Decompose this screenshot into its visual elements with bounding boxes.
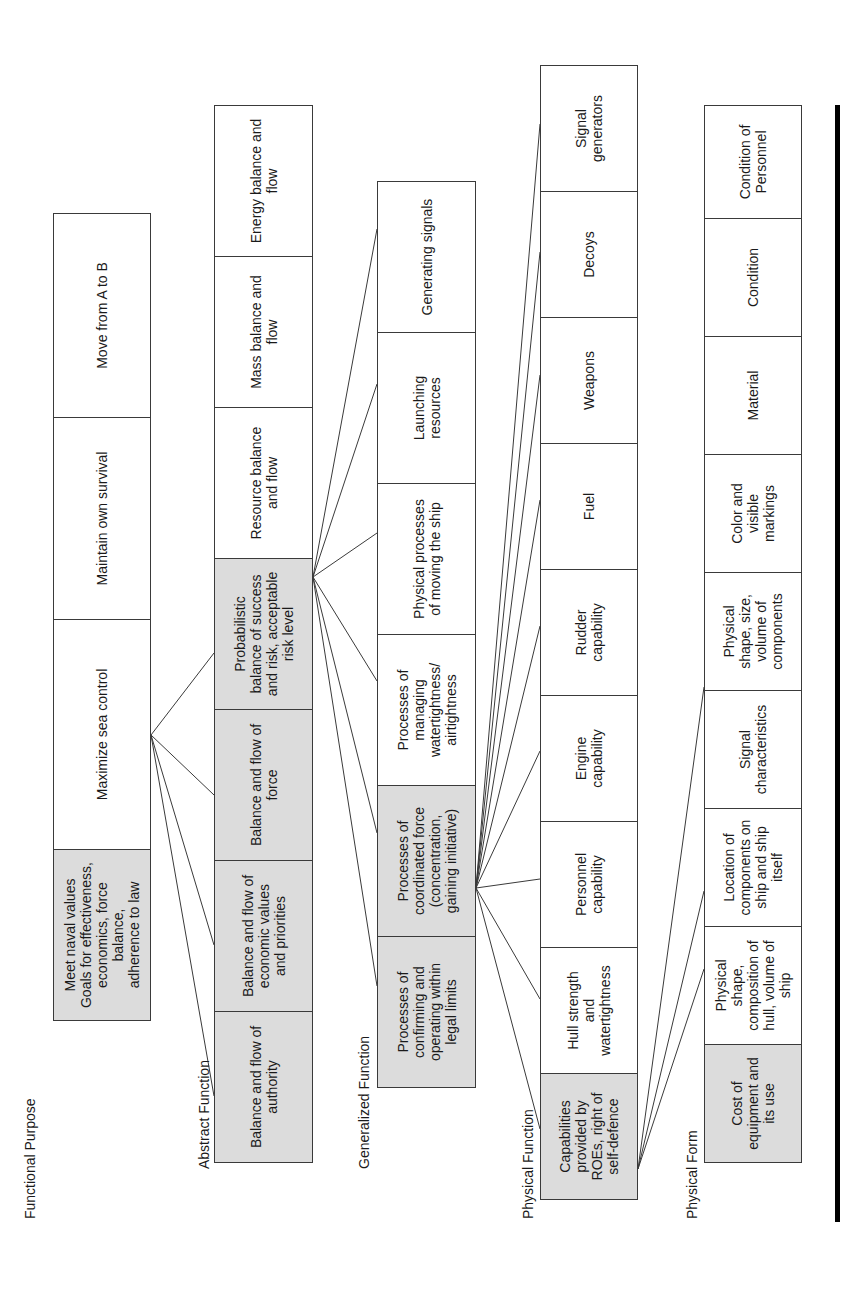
af-box-probabilistic-balance: Probabilistic balance of success and ris… — [214, 558, 313, 710]
abstraction-hierarchy-diagram: Functional Purpose Abstract Function Gen… — [0, 0, 847, 1309]
box-text: Color and visible markings — [729, 483, 777, 544]
gf-box-coordinated-force: Processes of coordinated force (concentr… — [377, 785, 476, 937]
fp-box-meet-naval-values: Meet naval values Goals for effectivenes… — [53, 849, 151, 1021]
box-text: Processes of confirming and operating wi… — [395, 963, 459, 1061]
level-label-functional-purpose: Functional Purpose — [22, 1098, 38, 1219]
box-text: Mass balance and flow — [248, 275, 280, 389]
box-text: Balance and flow of authority — [248, 1026, 280, 1148]
box-text: Cost of equipment and its use — [729, 1057, 777, 1150]
pform-box-location-of-components: Location of components on ship and ship … — [704, 808, 802, 927]
fp-box-maximize-sea-control: Maximize sea control — [53, 619, 151, 850]
box-text: Physical shape, composition of hull, vol… — [713, 940, 793, 1030]
pf-box-signal-generators: Signal generators — [540, 65, 638, 192]
box-text: Signal characteristics — [737, 705, 769, 794]
af-box-energy-balance: Energy balance and flow — [214, 105, 313, 257]
pform-box-condition: Condition — [704, 218, 802, 337]
box-text: Personnel capability — [573, 853, 605, 916]
gf-box-launching-resources: Launching resources — [377, 332, 476, 484]
af-box-economic-values: Balance and flow of economic values and … — [214, 860, 313, 1012]
pf-box-decoys: Decoys — [540, 191, 638, 318]
box-text: Energy balance and flow — [248, 119, 280, 244]
pform-box-cost-of-equipment: Cost of equipment and its use — [704, 1044, 802, 1163]
box-text: Maximize sea control — [94, 669, 110, 801]
page-rule — [835, 105, 840, 1222]
pf-box-rudder-capability: Rudder capability — [540, 569, 638, 696]
fp-box-move-from-a-to-b: Move from A to B — [53, 213, 151, 418]
af-box-force: Balance and flow of force — [214, 709, 313, 861]
af-box-authority: Balance and flow of authority — [214, 1011, 313, 1163]
level-label-physical-form: Physical Form — [684, 1130, 700, 1219]
box-text: Capabilities provided by ROEs, right of … — [557, 1093, 621, 1181]
pform-box-component-shape: Physical shape, size, volume of componen… — [704, 572, 802, 691]
box-text: Signal generators — [573, 95, 605, 162]
box-text: Maintain own survival — [94, 452, 110, 586]
gf-box-watertightness: Processes of managing watertightness/ ai… — [377, 634, 476, 786]
box-text: Processes of coordinated force (concentr… — [395, 807, 459, 915]
gf-box-legal-limits: Processes of confirming and operating wi… — [377, 936, 476, 1088]
level-label-physical-function: Physical Function — [520, 1109, 536, 1219]
box-text: Engine capability — [573, 729, 605, 787]
box-text: Material — [745, 371, 761, 421]
box-text: Physical shape, size, volume of componen… — [721, 593, 785, 669]
pf-box-fuel: Fuel — [540, 443, 638, 570]
box-text: Physical processes of moving the ship — [411, 499, 443, 619]
box-text: Resource balance and flow — [248, 427, 280, 540]
box-text: Fuel — [581, 493, 597, 520]
box-text: Processes of managing watertightness/ ai… — [395, 663, 459, 757]
box-text: Move from A to B — [94, 262, 110, 369]
pform-box-signal-characteristics: Signal characteristics — [704, 690, 802, 809]
fp-box-maintain-own-survival: Maintain own survival — [53, 417, 151, 620]
pform-box-hull-shape: Physical shape, composition of hull, vol… — [704, 926, 802, 1045]
af-box-mass-balance: Mass balance and flow — [214, 256, 313, 408]
pf-box-hull-strength: Hull strength and watertightness — [540, 947, 638, 1074]
pf-box-engine-capability: Engine capability — [540, 695, 638, 822]
gf-box-generating-signals: Generating signals — [377, 181, 476, 333]
box-text: Probabilistic balance of success and ris… — [232, 572, 296, 697]
pform-box-condition-of-personnel: Condition of Personnel — [704, 105, 802, 219]
box-text: Meet naval values Goals for effectivenes… — [62, 858, 142, 1012]
box-text: Condition of Personnel — [737, 125, 769, 200]
level-label-abstract-function: Abstract Function — [196, 1060, 212, 1169]
box-text: Balance and flow of economic values and … — [240, 875, 288, 997]
box-text: Balance and flow of force — [248, 724, 280, 846]
box-text: Location of components on ship and ship … — [721, 820, 785, 916]
box-text: Launching resources — [411, 376, 443, 441]
gf-box-moving-the-ship: Physical processes of moving the ship — [377, 483, 476, 635]
box-text: Generating signals — [419, 199, 435, 316]
pf-box-personnel-capability: Personnel capability — [540, 821, 638, 948]
box-text: Hull strength and watertightness — [565, 965, 613, 1055]
af-box-resource-balance: Resource balance and flow — [214, 407, 313, 559]
pf-box-weapons: Weapons — [540, 317, 638, 444]
box-text: Condition — [745, 248, 761, 307]
level-label-generalized-function: Generalized Function — [356, 1036, 372, 1169]
box-text: Decoys — [581, 231, 597, 278]
pf-box-roe-capabilities: Capabilities provided by ROEs, right of … — [540, 1073, 638, 1200]
box-text: Weapons — [581, 351, 597, 410]
pform-box-material: Material — [704, 336, 802, 455]
box-text: Rudder capability — [573, 603, 605, 661]
pform-box-color-markings: Color and visible markings — [704, 454, 802, 573]
